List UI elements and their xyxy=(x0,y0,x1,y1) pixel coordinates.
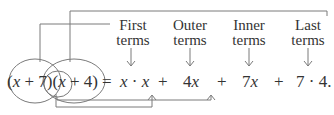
label-first-line2: terms xyxy=(113,33,153,48)
var-x: x xyxy=(251,72,259,91)
term-outer: 4x xyxy=(183,73,199,90)
var-x: x xyxy=(142,72,150,91)
label-inner-line1: Inner xyxy=(229,18,269,33)
plus-sign: + xyxy=(274,73,284,90)
label-last-line2: terms xyxy=(288,33,328,48)
plus-sign: + xyxy=(158,73,168,90)
inner-terms-connector xyxy=(57,96,211,100)
equation-lhs: (x + 7)(x + 4) xyxy=(7,73,98,90)
label-first-terms: First terms xyxy=(113,18,153,48)
connector-lines xyxy=(0,0,334,115)
term-last: 7 · 4. xyxy=(296,73,331,90)
label-last-terms: Last terms xyxy=(288,18,328,48)
coefficient: 4 xyxy=(183,72,192,91)
label-inner-terms: Inner terms xyxy=(229,18,269,48)
var-x: x xyxy=(58,72,66,91)
var-x: x xyxy=(120,72,128,91)
foil-diagram: First terms Outer terms Inner terms Last… xyxy=(0,0,334,115)
label-outer-line2: terms xyxy=(170,33,210,48)
label-outer-line1: Outer xyxy=(170,18,210,33)
equals-sign: = xyxy=(102,73,112,90)
label-first-line1: First xyxy=(113,18,153,33)
term-first: x · x xyxy=(120,73,149,90)
plus-sign: + xyxy=(217,73,227,90)
label-outer-terms: Outer terms xyxy=(170,18,210,48)
coefficient: 7 xyxy=(242,72,251,91)
var-x: x xyxy=(192,72,200,91)
lhs-part: + 7)( xyxy=(20,72,58,91)
label-inner-line2: terms xyxy=(229,33,269,48)
lhs-part: + 4) xyxy=(66,72,98,91)
label-last-line1: Last xyxy=(288,18,328,33)
first-terms-connector xyxy=(40,24,110,62)
dot: · xyxy=(128,72,142,91)
term-inner: 7x xyxy=(242,73,258,90)
